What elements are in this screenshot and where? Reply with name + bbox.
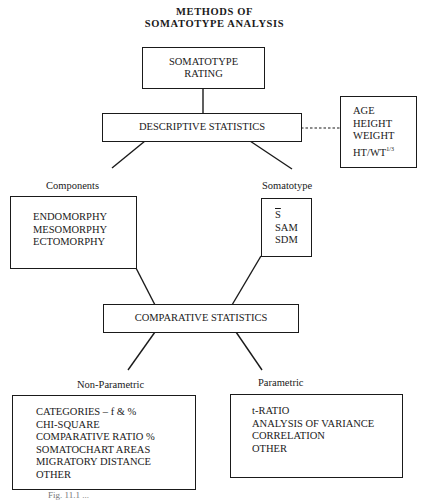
node-somatotype-rating: SOMATOTYPE RATING <box>142 47 265 89</box>
np-somatochart-areas: SOMATOCHART AREAS <box>36 444 195 457</box>
somatotype-heading: Somatotype <box>262 180 312 192</box>
node-variables: AGE HEIGHT WEIGHT HT/WT1/3 <box>340 96 417 168</box>
parametric-heading: Parametric <box>258 377 303 389</box>
np-migratory-distance: MIGRATORY DISTANCE <box>36 456 195 469</box>
comparative-label: COMPARATIVE STATISTICS <box>135 312 268 325</box>
descriptive-label: DESCRIPTIVE STATISTICS <box>139 121 265 134</box>
node-components: ENDOMORPHY MESOMORPHY ECTOMORPHY <box>10 196 137 269</box>
node-non-parametric: CATEGORIES – f & % CHI-SQUARE COMPARATIV… <box>12 395 196 490</box>
somatotype-sam: SAM <box>275 222 311 235</box>
somatotype-sdm: SDM <box>275 234 311 247</box>
component-mesomorphy: MESOMORPHY <box>33 224 136 237</box>
p-correlation: CORRELATION <box>252 430 402 443</box>
np-categories: CATEGORIES – f & % <box>36 406 195 419</box>
component-ectomorphy: ECTOMORPHY <box>33 236 136 249</box>
variable-age: AGE <box>353 105 416 118</box>
non-parametric-heading: Non-Parametric <box>77 379 144 391</box>
p-t-ratio: t-RATIO <box>252 405 402 418</box>
rating-line-1: SOMATOTYPE <box>169 56 238 69</box>
p-other: OTHER <box>252 443 402 456</box>
variable-ht-wt: HT/WT1/3 <box>353 143 416 159</box>
rating-line-2: RATING <box>169 68 238 81</box>
variable-weight: WEIGHT <box>353 130 416 143</box>
np-comparative-ratio: COMPARATIVE RATIO % <box>36 431 195 444</box>
node-parametric: t-RATIO ANALYSIS OF VARIANCE CORRELATION… <box>230 394 403 478</box>
p-anova: ANALYSIS OF VARIANCE <box>252 418 402 431</box>
node-comparative-statistics: COMPARATIVE STATISTICS <box>103 304 299 333</box>
np-chi-square: CHI-SQUARE <box>36 419 195 432</box>
figure-caption: Fig. 11.1 ... <box>48 490 89 500</box>
node-descriptive-statistics: DESCRIPTIVE STATISTICS <box>102 113 302 142</box>
variable-height: HEIGHT <box>353 118 416 131</box>
np-other: OTHER <box>36 469 195 482</box>
node-somatotype: S SAM SDM <box>261 198 312 257</box>
components-heading: Components <box>46 180 99 192</box>
somatotype-mean: S <box>275 209 311 222</box>
superscript: 1/3 <box>386 146 394 152</box>
component-endomorphy: ENDOMORPHY <box>33 211 136 224</box>
